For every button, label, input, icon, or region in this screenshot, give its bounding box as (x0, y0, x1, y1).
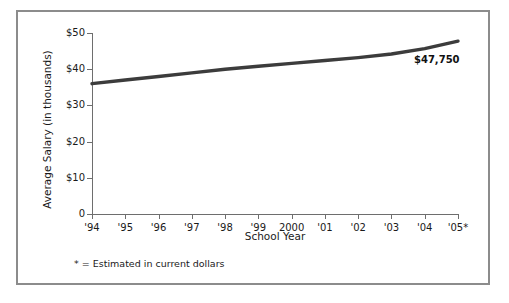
x-axis-line (92, 214, 459, 215)
x-tick (125, 214, 126, 219)
y-tick-label: $30 (66, 100, 85, 110)
x-tick (258, 214, 259, 219)
y-tick-label: $50 (66, 28, 85, 38)
plot-area: $50$40$30$20$100 '94'95'96'97'98'992000'… (92, 33, 458, 214)
x-axis-title: School Year (92, 230, 458, 242)
x-tick (92, 214, 93, 219)
x-tick (225, 214, 226, 219)
y-tick-label: $10 (66, 173, 85, 183)
footnote: * = Estimated in current dollars (74, 258, 225, 269)
x-tick (159, 214, 160, 219)
y-axis-title: Average Salary (in thousands) (40, 43, 54, 215)
x-tick (292, 214, 293, 219)
y-axis-title-text: Average Salary (in thousands) (42, 50, 53, 208)
x-tick (325, 214, 326, 219)
x-tick (391, 214, 392, 219)
y-tick-label: $40 (66, 64, 85, 74)
y-tick-label: $20 (66, 137, 85, 147)
x-tick (458, 214, 459, 219)
salary-line-series (92, 33, 458, 214)
x-tick (425, 214, 426, 219)
series-polyline (92, 41, 458, 84)
x-tick (358, 214, 359, 219)
y-tick-label: 0 (79, 209, 85, 219)
chart-frame: Average Salary (in thousands) $50$40$30$… (16, 10, 490, 285)
end-value-label: $47,750 (414, 54, 460, 65)
x-tick (192, 214, 193, 219)
